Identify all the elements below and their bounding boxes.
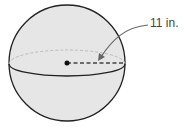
radius-label: 11 in.: [150, 16, 178, 30]
center-point: [65, 61, 70, 66]
